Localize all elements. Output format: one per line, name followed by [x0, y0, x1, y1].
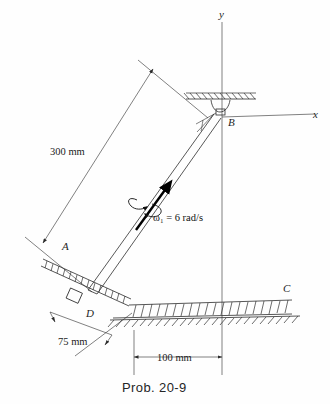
- angular-velocity-label: ω₁ = 6 rad/s: [153, 212, 203, 223]
- point-label-b: B: [228, 116, 235, 128]
- angular-velocity-indicator: ω₁ = 6 rad/s: [129, 183, 203, 230]
- ceiling-hatching: [184, 93, 256, 99]
- y-axis-label: y: [218, 8, 224, 20]
- dimension-label-300: 300 mm: [50, 146, 85, 157]
- point-label-c: C: [283, 282, 291, 294]
- socket-cup: [211, 100, 230, 112]
- ext-line-300-top: [138, 60, 208, 118]
- point-label-a: A: [61, 240, 69, 252]
- horizontal-surface: C: [108, 282, 300, 327]
- problem-diagram: y x B: [0, 0, 330, 404]
- x-axis: [222, 114, 315, 117]
- spin-arc-left: [129, 199, 147, 210]
- dim-line-75-upper: [50, 312, 112, 335]
- inclined-surface: A: [41, 240, 131, 306]
- collar-block-d: D: [66, 288, 94, 319]
- dimension-label-100: 100 mm: [157, 352, 192, 363]
- dimension-label-75: 75 mm: [58, 336, 87, 347]
- incline-hatching: [45, 261, 125, 303]
- collar-body: [66, 288, 82, 303]
- ext-line-75: [75, 313, 132, 356]
- rod-edge-right: [97, 118, 221, 294]
- ceiling-support: B: [184, 93, 256, 128]
- rod-edge-left: [88, 114, 214, 290]
- arrow-75-lower: [105, 335, 112, 345]
- ground-bottom-edge: [113, 314, 292, 318]
- leader-lower: [197, 114, 214, 132]
- ground-top-edge: [129, 300, 292, 305]
- figure-caption: Prob. 20-9: [122, 380, 187, 395]
- coordinate-axes: y x: [218, 8, 318, 308]
- point-label-d: D: [85, 307, 94, 319]
- ext-line-300-bottom: [25, 237, 92, 292]
- figure-container: y x B: [0, 0, 330, 404]
- x-axis-label: x: [312, 108, 318, 120]
